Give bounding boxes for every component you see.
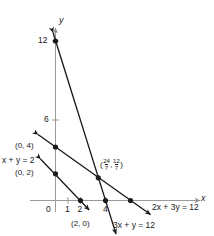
y-axis-label: y [59, 16, 64, 25]
y-tick-label-12: 12 [38, 36, 47, 45]
equation-label-line3: 3x + y = 12 [113, 221, 155, 230]
equation-text-line1: x + y = 2 [2, 155, 35, 165]
coordinate-plane-graph [0, 0, 214, 236]
x-tick-label-1: 1 [65, 205, 70, 214]
point-label-0-2: (0, 2) [15, 169, 34, 177]
fraction-y: 12 7 [113, 158, 120, 172]
point-0-12 [53, 38, 58, 43]
point-intersection [96, 175, 101, 180]
equation-text-line3: 3x + y = 12 [113, 220, 155, 230]
y-tick-label-6: 6 [44, 115, 49, 124]
equation-label-line2: 2x + 3y = 12 [152, 203, 199, 212]
x-tick-label-4: 4 [103, 205, 108, 214]
point-label-0-4: (0, 4) [15, 142, 34, 150]
point-label-2-0: (2, 0) [71, 220, 90, 228]
x-tick-label-2: 2 [78, 205, 83, 214]
paren-close: ) [120, 161, 123, 169]
fraction-y-denominator: 7 [115, 164, 118, 171]
fraction-x: 24 7 [103, 158, 110, 172]
equation-label-line1: x + y = 2 [2, 156, 35, 165]
x-tick-label-0: 0 [46, 205, 51, 214]
point-4-0 [103, 198, 108, 203]
plotted-points-group [53, 38, 133, 203]
equation-text-line2: 2x + 3y = 12 [152, 202, 199, 212]
point-6-0 [128, 198, 133, 203]
point-0-2 [53, 171, 58, 176]
intersection-point-label: ( 24 7 , 12 7 ) [100, 158, 123, 172]
x-axis-label: x [201, 194, 206, 203]
fraction-x-denominator: 7 [105, 164, 108, 171]
point-2-0 [78, 198, 83, 203]
point-0-4 [53, 144, 58, 149]
